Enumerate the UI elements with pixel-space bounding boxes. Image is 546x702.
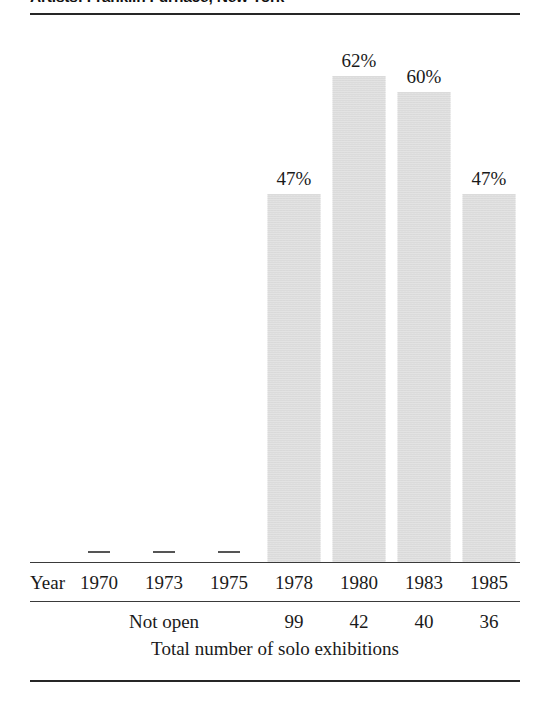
year-cell: 1973 xyxy=(133,572,195,594)
bar-slot: 47% xyxy=(263,16,325,563)
bar[interactable] xyxy=(268,194,321,563)
bar-value-label: 60% xyxy=(407,66,442,88)
year-row: Year 1970197319751978198019831985 xyxy=(30,564,520,602)
bar-value-label: 47% xyxy=(277,168,312,190)
year-cell: 1970 xyxy=(68,572,130,594)
count-cell: 36 xyxy=(458,611,520,633)
count-cell: 40 xyxy=(393,611,455,633)
no-data-dash-icon xyxy=(153,551,175,553)
count-cell: 42 xyxy=(328,611,390,633)
year-cell: 1978 xyxy=(263,572,325,594)
rule-under-year-row xyxy=(30,601,520,602)
plot-area: 47%62%60%47% xyxy=(30,16,520,563)
bar-slot xyxy=(133,16,195,563)
no-data-dash-icon xyxy=(218,551,240,553)
year-cell: 1980 xyxy=(328,572,390,594)
bar-value-label: 47% xyxy=(472,168,507,190)
bar[interactable] xyxy=(398,92,451,563)
bar[interactable] xyxy=(333,76,386,563)
bar-value-label: 62% xyxy=(342,50,377,72)
year-row-label: Year xyxy=(30,572,65,594)
not-open-label: Not open xyxy=(68,611,260,633)
bar[interactable] xyxy=(463,194,516,563)
bar-slot xyxy=(68,16,130,563)
chart-figure: Artists: Franklin Furnace, New York 47%6… xyxy=(0,0,546,702)
year-cell: 1983 xyxy=(393,572,455,594)
no-data-dash-icon xyxy=(88,551,110,553)
x-axis-line xyxy=(30,562,520,563)
page-title: Artists: Franklin Furnace, New York xyxy=(30,0,520,6)
year-cell: 1985 xyxy=(458,572,520,594)
bar-slot xyxy=(198,16,260,563)
rule-bottom-divider xyxy=(30,680,520,682)
bar-slot: 47% xyxy=(458,16,520,563)
year-cell: 1975 xyxy=(198,572,260,594)
bar-slot: 60% xyxy=(393,16,455,563)
count-cell: 99 xyxy=(263,611,325,633)
bar-slot: 62% xyxy=(328,16,390,563)
chart-caption: Total number of solo exhibitions xyxy=(30,638,520,660)
count-row: Not open 99424036 xyxy=(30,603,520,641)
